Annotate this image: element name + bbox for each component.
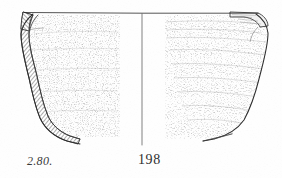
figure-number-caption: 198 <box>138 153 161 167</box>
scale-caption: 2.80. <box>27 155 53 167</box>
plate-figure: 2.80. 198 <box>0 0 282 178</box>
